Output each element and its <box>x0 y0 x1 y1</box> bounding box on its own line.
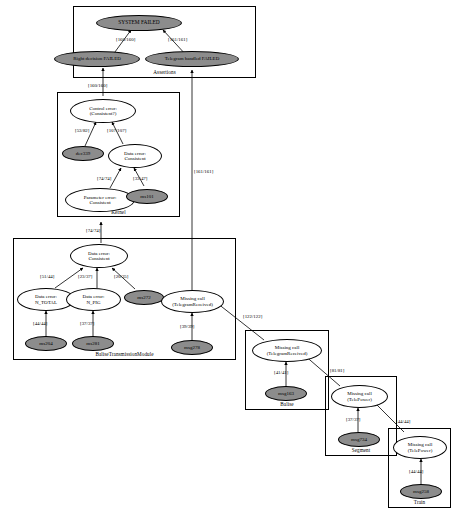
edge-label-ms281-to-npig: [37/37] <box>80 321 94 326</box>
node-ms101[interactable]: ms101 <box>126 189 168 204</box>
node-label: Telegram handled FAILED <box>146 56 238 61</box>
cluster-label-train: Train <box>388 499 451 505</box>
cluster-label-segment: Segment <box>325 447 397 453</box>
node-msg734[interactable]: msg734 <box>338 432 380 447</box>
node-msg258[interactable]: msg258 <box>400 484 442 499</box>
edge-label-npig-to-dataerr-b: [23/37] <box>78 274 92 279</box>
edge-label-right-decision-to-system: [160/160] <box>116 37 135 42</box>
node-label: ms272 <box>125 295 163 300</box>
node-label: Parameter error: Consistent <box>66 195 134 206</box>
node-missing-call-telepower-segment[interactable]: Missing call (TelePower) <box>331 385 388 408</box>
edge-label-dec339-to-control: [53/82] <box>75 128 89 133</box>
edge-label-train-to-segment: [44/44] <box>396 419 410 424</box>
edge-label-msg278-to-missingcall-b: [39/39] <box>180 324 194 329</box>
edge-label-telegram-to-system: [161/161] <box>168 37 187 42</box>
edge-label-control-to-right-decision: [160/160] <box>88 83 107 88</box>
node-system-failed[interactable]: SYSTEM FAILED <box>96 15 182 31</box>
node-label: msg734 <box>339 437 379 442</box>
node-ms204[interactable]: ms204 <box>25 336 67 351</box>
edge-label-msg258-to-train: [44/44] <box>409 469 423 474</box>
edge-label-dataerr-k-to-control: [107/107] <box>107 128 126 133</box>
edge-label-ms272-to-dataerr-b: [20/35] <box>114 274 128 279</box>
node-msg163[interactable]: msg163 <box>265 386 307 401</box>
node-label: Missing call (TelegramReceived) <box>162 296 223 307</box>
node-label: ms101 <box>127 194 167 199</box>
node-label: dec339 <box>63 151 103 156</box>
edge-label-missingcall-b-to-telegram: [161/161] <box>194 169 213 174</box>
node-label: Data error: Consistent <box>71 251 127 262</box>
node-right-decision-failed[interactable]: Right decision FAILED <box>54 51 140 67</box>
node-label: msg163 <box>266 391 306 396</box>
cluster-label-balise: Balise <box>245 401 329 407</box>
node-label: ms281 <box>73 341 113 346</box>
node-label: msg258 <box>401 489 441 494</box>
node-msg278[interactable]: msg278 <box>171 340 213 355</box>
node-label: SYSTEM FAILED <box>97 20 181 26</box>
node-data-error-consistent-kernel[interactable]: Data error: Consistent <box>108 144 162 168</box>
edge-label-ms204-to-ntotal: [44/44] <box>33 321 47 326</box>
node-ms281[interactable]: ms281 <box>72 336 114 351</box>
node-parameter-error-consistent[interactable]: Parameter error: Consistent <box>65 188 135 212</box>
edge-label-param-to-dataerr-k: [74/74] <box>97 176 111 181</box>
node-missing-call-telegramreceived-baseline[interactable]: Missing call (TelegramReceived) <box>161 290 224 313</box>
node-label: Missing call (TelePower) <box>332 391 387 402</box>
edge-label-ms101-to-dataerr-k: [33/47] <box>133 176 147 181</box>
node-label: Data error: N_PIG <box>67 294 120 305</box>
node-label: Missing call (TelePower) <box>394 442 446 453</box>
node-label: ms204 <box>26 341 66 346</box>
node-data-error-n-pig[interactable]: Data error: N_PIG <box>66 288 121 311</box>
node-label: Control error: (Consistent?) <box>71 106 135 117</box>
cluster-label-assertions: Assertions <box>73 69 256 75</box>
causality-diagram: Assertions Kernel BaliseTransmissionModu… <box>0 0 456 521</box>
edge-label-msg734-to-segment: [37/37] <box>346 417 360 422</box>
node-label: Data error: Consistent <box>109 151 161 162</box>
node-dec339[interactable]: dec339 <box>62 146 104 161</box>
edge-label-msg163-to-balise: [41/41] <box>274 370 288 375</box>
node-ms272[interactable]: ms272 <box>124 290 164 305</box>
edge-label-ntotal-to-dataerr-b: [51/44] <box>40 274 54 279</box>
node-telegram-handled-failed[interactable]: Telegram handled FAILED <box>145 51 239 67</box>
edge-label-dataerr-b-to-param: [74/74] <box>86 228 100 233</box>
node-control-error-consistent[interactable]: Control error: (Consistent?) <box>70 99 136 123</box>
node-missing-call-telegramreceived-balise[interactable]: Missing call (TelegramReceived) <box>252 339 322 362</box>
node-data-error-consistent-baseline[interactable]: Data error: Consistent <box>70 244 128 268</box>
node-label: Right decision FAILED <box>55 56 139 61</box>
edge-label-segment-to-balise: [81/81] <box>330 368 344 373</box>
node-label: msg278 <box>172 345 212 350</box>
node-missing-call-telepower-train[interactable]: Missing call (TelePower) <box>393 436 447 459</box>
node-label: Missing call (TelegramReceived) <box>253 345 321 356</box>
edge-label-balise-to-baseline: [122/122] <box>243 314 262 319</box>
